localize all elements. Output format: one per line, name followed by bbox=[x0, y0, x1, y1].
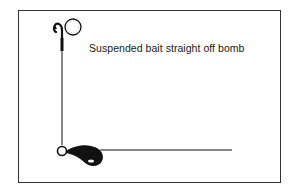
swivel-ring-icon bbox=[58, 147, 67, 156]
rig-diagram bbox=[0, 0, 296, 193]
diagram-caption: Suspended bait straight off bomb bbox=[89, 42, 245, 54]
bomb-weight-icon bbox=[66, 145, 103, 166]
hook-icon bbox=[53, 24, 62, 40]
boilie-icon bbox=[65, 19, 81, 35]
shank-sleeve bbox=[61, 38, 64, 51]
